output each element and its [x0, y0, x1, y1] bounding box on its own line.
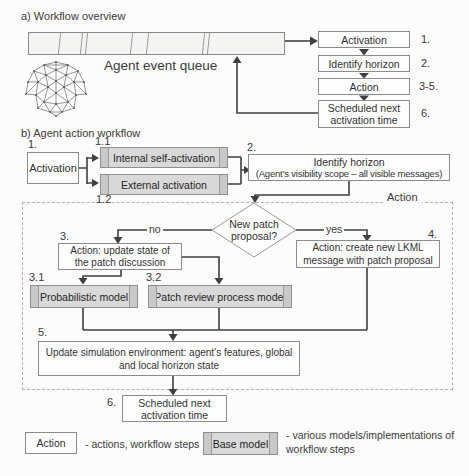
agent-event-queue-label: Agent event queue	[104, 58, 217, 73]
update-state-number: 3.	[60, 230, 69, 242]
queue-event-tick	[58, 33, 61, 54]
action-region-label: Action	[383, 190, 422, 204]
legend-base-model-box: Base model	[203, 432, 278, 455]
step-scheduled-next-box: Scheduled next activation time	[318, 100, 410, 128]
decision-yes-label: yes	[324, 224, 344, 235]
external-activation-label: External activation	[121, 179, 207, 191]
section-b-title: b) Agent action workflow	[21, 127, 140, 140]
internal-self-activation-label: Internal self-activation	[113, 152, 215, 164]
identify-horizon-line1: Identify horizon	[313, 156, 384, 168]
queue-event-tick	[207, 33, 210, 54]
agent-event-queue-bar	[28, 32, 285, 55]
queue-event-tick	[202, 33, 205, 54]
agent-network-icon	[24, 60, 88, 118]
step-number: 1.	[421, 33, 430, 45]
legend-base-model-description: - various models/implementations of work…	[286, 428, 456, 456]
internal-self-activation-box: Internal self-activation	[100, 147, 228, 168]
queue-event-tick	[85, 33, 88, 54]
scheduled-next-box: Scheduled next activation time	[122, 395, 227, 422]
queue-event-tick	[146, 33, 149, 54]
step-activation-box: Activation	[318, 31, 410, 48]
patch-review-model-box: Patch review process model	[148, 285, 292, 308]
patch-review-model-label: Patch review process model	[154, 291, 285, 303]
step-number: 3-5.	[419, 80, 438, 92]
step-number: 2.	[421, 57, 430, 69]
identify-horizon-line2: (Agent’s visibility scope – all visible …	[256, 168, 442, 180]
probabilistic-model-number: 3.1	[29, 271, 44, 283]
create-message-number: 4.	[428, 228, 437, 240]
step-number: 6.	[421, 107, 430, 119]
update-state-box: Action: update state of the patch discus…	[58, 243, 182, 270]
probabilistic-model-box: Probabilistic model	[30, 285, 138, 308]
workflow-diagram: a) Workflow overview Agent event queue A…	[0, 0, 469, 476]
identify-horizon-box: Identify horizon (Agent’s visibility sco…	[248, 154, 450, 181]
create-message-box: Action: create new LKML message with pat…	[296, 240, 440, 268]
legend-base-model-label: Base model	[213, 438, 268, 450]
legend-action-description: - actions, workflow steps	[85, 437, 199, 451]
identify-horizon-number: 2.	[247, 141, 256, 153]
activation-number: 1.	[28, 138, 37, 150]
activation-box: Activation	[27, 152, 79, 184]
queue-event-tick	[130, 33, 133, 54]
scheduled-next-number: 6.	[107, 396, 116, 408]
step-action-box: Action	[318, 78, 410, 95]
external-activation-box: External activation	[100, 174, 228, 195]
patch-review-model-number: 3.2	[146, 271, 161, 283]
step-identify-horizon-box: Identify horizon	[318, 55, 410, 72]
probabilistic-model-label: Probabilistic model	[40, 291, 128, 303]
legend-action-box: Action	[25, 432, 77, 454]
update-environment-number: 5.	[38, 326, 47, 338]
section-a-title: a) Workflow overview	[21, 10, 125, 23]
decision-no-label: no	[147, 224, 163, 235]
decision-question: New patch proposal?	[211, 218, 297, 242]
update-environment-box: Update simulation environment: agent’s f…	[38, 341, 300, 376]
queue-event-tick	[80, 33, 83, 54]
internal-activation-number: 1.1	[95, 135, 110, 147]
